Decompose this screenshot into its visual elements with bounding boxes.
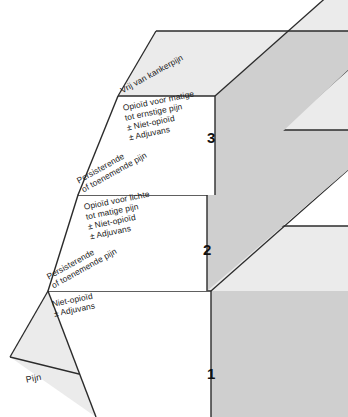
step-2-number: 2 bbox=[203, 241, 211, 258]
step-3-number: 3 bbox=[207, 129, 215, 146]
step-1-number: 1 bbox=[207, 365, 215, 382]
step-1-side-face bbox=[211, 291, 348, 417]
pain-ladder-diagram: Vrij van kankerpijn Opioïd voor matige t… bbox=[0, 0, 348, 417]
